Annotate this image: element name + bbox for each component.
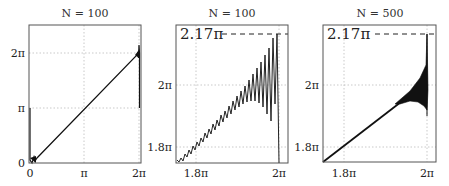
panel-1-frame bbox=[29, 25, 141, 163]
p2-xtick-0: 1.8π bbox=[184, 167, 209, 180]
p3-xtick-0: 1.8π bbox=[332, 167, 357, 180]
p2-annotation: 2.17π bbox=[180, 25, 223, 43]
p3-ytick-1: 2π bbox=[305, 79, 319, 92]
panel-1: N = 100 0 π 2π 0 π 2π bbox=[11, 7, 146, 180]
p1-ytick-1: π bbox=[18, 102, 25, 115]
p3-xtick-1: 2π bbox=[420, 167, 434, 180]
figure: N = 100 0 π 2π 0 π 2π N = 100 2.17π bbox=[0, 0, 449, 186]
panel-3-title: N = 500 bbox=[357, 7, 404, 20]
p2-xtick-1: 2π bbox=[272, 167, 286, 180]
panel-2: N = 100 2.17π 1.8π 2π 1.8π 2π bbox=[147, 7, 288, 180]
panel-3: N = 500 2.17π 1.8π 2π 1.8π 2π bbox=[294, 7, 436, 180]
p3-annotation: 2.17π bbox=[327, 25, 370, 43]
panel-2-curve bbox=[177, 34, 279, 163]
panel-1-title: N = 100 bbox=[62, 7, 109, 20]
panel-2-title: N = 100 bbox=[209, 7, 256, 20]
p1-ytick-0: 0 bbox=[18, 157, 25, 170]
panel-3-curve bbox=[323, 95, 410, 162]
p1-xtick-2: 2π bbox=[132, 167, 146, 180]
p3-ytick-0: 1.8π bbox=[294, 141, 319, 154]
p1-ytick-2: 2π bbox=[11, 47, 25, 60]
p2-ytick-1: 2π bbox=[158, 79, 172, 92]
p1-xtick-1: π bbox=[80, 167, 87, 180]
panel-1-curve bbox=[30, 45, 140, 163]
p2-ytick-0: 1.8π bbox=[147, 141, 172, 154]
p1-xtick-0: 0 bbox=[27, 167, 34, 180]
